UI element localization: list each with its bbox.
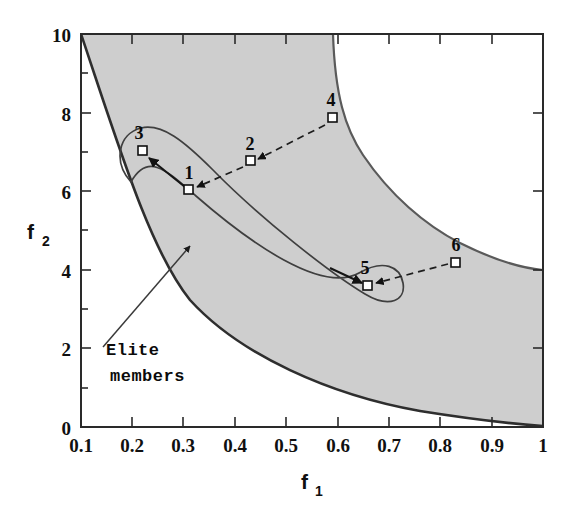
y-tick-label: 10: [52, 25, 71, 46]
y-tick-label: 8: [62, 104, 72, 125]
data-point-marker[interactable]: [328, 113, 337, 122]
figure-container: 0.1 0.2 0.3 0.4 0.5 0.6 0.7 0.8 0.9 1 0 …: [0, 0, 572, 516]
scatter-plot: 0.1 0.2 0.3 0.4 0.5 0.6 0.7 0.8 0.9 1 0 …: [0, 0, 572, 516]
data-point-marker[interactable]: [246, 156, 255, 165]
elite-annotation-line2: members: [110, 367, 185, 386]
y-tick-label: 4: [62, 261, 72, 282]
x-tick-label: 0.2: [120, 435, 144, 456]
y-axis-title-subscript: 2: [42, 233, 50, 249]
point-label: 2: [246, 134, 255, 154]
data-point-marker[interactable]: [451, 258, 460, 267]
y-tick-label: 6: [62, 182, 72, 203]
point-label: 5: [361, 258, 370, 278]
point-label: 4: [327, 90, 336, 110]
elite-annotation-line1: Elite: [106, 341, 160, 360]
y-axis-title-text: f: [27, 220, 35, 243]
data-point-marker[interactable]: [363, 281, 372, 290]
x-tick-label: 0.5: [274, 435, 298, 456]
y-tick-label: 2: [62, 339, 72, 360]
x-axis-title-subscript: 1: [315, 483, 323, 499]
x-tick-label: 1: [538, 435, 548, 456]
x-tick-label: 0.9: [480, 435, 504, 456]
point-label: 3: [135, 123, 144, 143]
data-point-marker[interactable]: [184, 185, 193, 194]
data-point-marker[interactable]: [138, 146, 147, 155]
point-label: 1: [185, 163, 194, 183]
x-tick-label: 0.4: [223, 435, 247, 456]
x-tick-label: 0.1: [69, 435, 93, 456]
x-tick-label: 0.7: [377, 435, 401, 456]
y-tick-label: 0: [62, 418, 72, 439]
point-label: 6: [452, 235, 461, 255]
x-tick-label: 0.8: [428, 435, 452, 456]
x-tick-label: 0.3: [171, 435, 195, 456]
x-axis-title-text: f: [301, 470, 309, 493]
x-tick-label: 0.6: [326, 435, 350, 456]
